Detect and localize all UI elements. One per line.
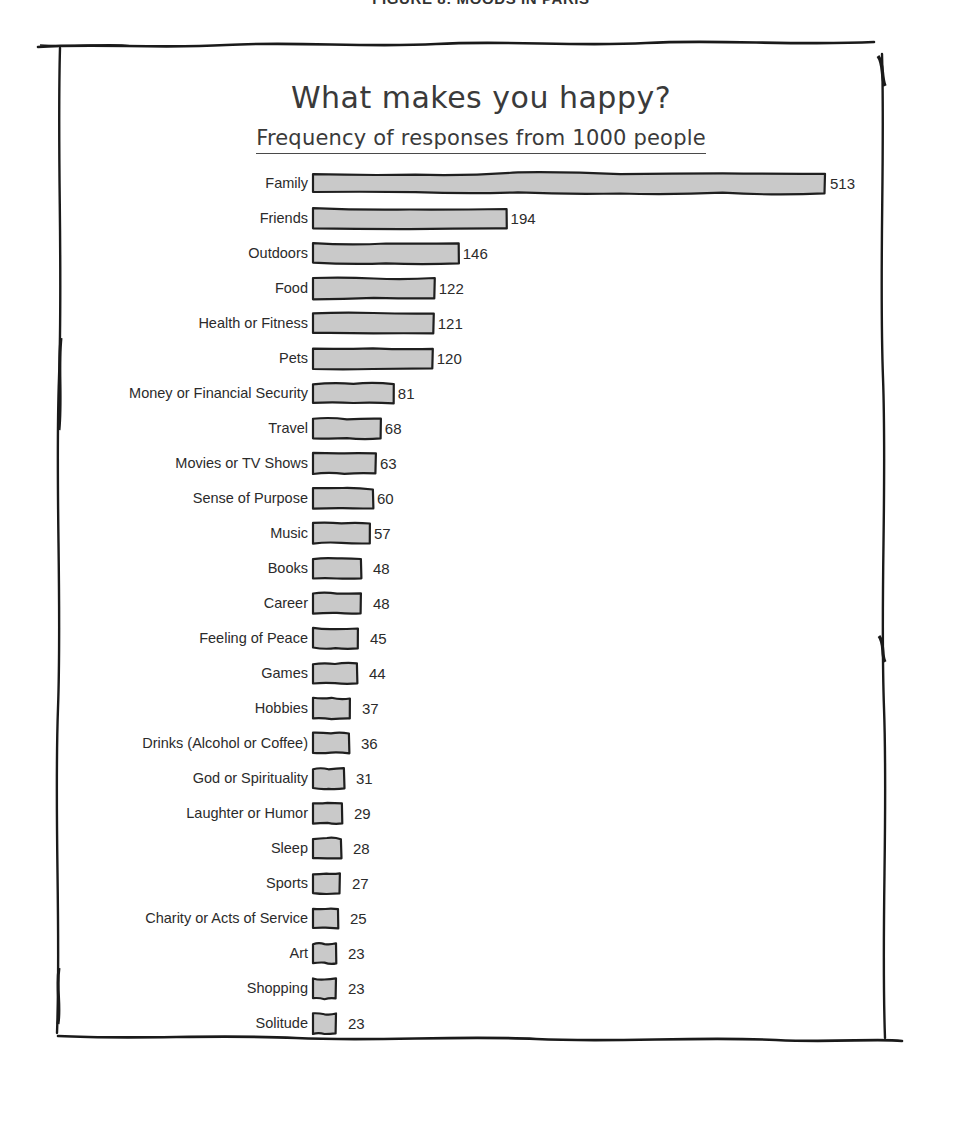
bar-chart-row: Pets120 (0, 341, 962, 376)
bar-category-label: Drinks (Alcohol or Coffee) (142, 726, 308, 761)
bar-outline (313, 243, 459, 264)
bar-value-label: 48 (373, 551, 390, 586)
bar-value-label: 44 (369, 656, 386, 691)
bar-category-label: Outdoors (248, 236, 308, 271)
bar-value-label: 194 (511, 201, 536, 236)
bar-shape (313, 452, 376, 475)
bar-outline (313, 838, 341, 859)
bar-shape (313, 942, 336, 965)
bar-chart-row: Friends194 (0, 201, 962, 236)
bar-shape (313, 872, 340, 895)
bar-category-label: Music (270, 516, 308, 551)
bar-outline (313, 593, 361, 614)
bar-outline (313, 453, 376, 474)
bar-category-label: Family (265, 166, 308, 201)
bar-value-label: 63 (380, 446, 397, 481)
bar-shape (313, 697, 350, 720)
bar-outline (313, 488, 373, 509)
bar-outline (313, 733, 349, 754)
bar-value-label: 45 (370, 621, 387, 656)
bar-outline (313, 348, 433, 369)
bar-shape (313, 347, 433, 370)
bar-value-label: 36 (361, 726, 378, 761)
bar-shape (313, 172, 825, 195)
bar-shape (313, 802, 342, 825)
bar-chart-row: Books48 (0, 551, 962, 586)
bar-value-label: 68 (385, 411, 402, 446)
bar-chart-row: Career48 (0, 586, 962, 621)
bar-chart-row: God or Spirituality31 (0, 761, 962, 796)
bar-outline (313, 383, 394, 403)
bar-chart-row: Travel68 (0, 411, 962, 446)
bar-value-label: 23 (348, 971, 365, 1006)
bar-value-label: 81 (398, 376, 415, 411)
bar-outline (313, 172, 825, 194)
bar-chart-row: Shopping23 (0, 971, 962, 1006)
bar-shape (313, 732, 349, 755)
bar-outline (313, 943, 336, 964)
bar-shape (313, 242, 459, 265)
bar-category-label: Health or Fitness (198, 306, 308, 341)
bar-category-label: Feeling of Peace (199, 621, 308, 656)
bar-chart-plot-area: Family513Friends194Outdoors146Food122Hea… (0, 166, 962, 1026)
bar-chart-row: Family513 (0, 166, 962, 201)
bar-category-label: Movies or TV Shows (175, 446, 308, 481)
bar-chart-row: Charity or Acts of Service25 (0, 901, 962, 936)
bar-shape (313, 837, 341, 860)
bar-outline (313, 628, 358, 649)
bar-outline (313, 768, 344, 789)
bar-value-label: 37 (362, 691, 379, 726)
bar-value-label: 23 (348, 1006, 365, 1041)
bar-outline (313, 313, 434, 334)
bar-value-label: 27 (352, 866, 369, 901)
bar-value-label: 25 (350, 901, 367, 936)
bar-category-label: Career (264, 586, 308, 621)
bar-shape (313, 382, 394, 405)
bar-chart-row: Drinks (Alcohol or Coffee)36 (0, 726, 962, 761)
bar-value-label: 57 (374, 516, 391, 551)
bar-shape (313, 207, 507, 230)
bar-category-label: Food (275, 271, 308, 306)
bar-value-label: 23 (348, 936, 365, 971)
bar-outline (313, 803, 342, 824)
chart-title: What makes you happy? (0, 80, 962, 115)
bar-chart-row: Movies or TV Shows63 (0, 446, 962, 481)
bar-chart-row: Sports27 (0, 866, 962, 901)
bar-category-label: Shopping (247, 971, 308, 1006)
bar-category-label: Hobbies (255, 691, 308, 726)
bar-shape (313, 487, 373, 510)
bar-value-label: 122 (439, 271, 464, 306)
bar-outline (313, 278, 435, 300)
bar-shape (313, 1012, 336, 1035)
bar-chart-row: Health or Fitness121 (0, 306, 962, 341)
bar-shape (313, 907, 338, 930)
bar-category-label: God or Spirituality (193, 761, 308, 796)
bar-chart-row: Money or Financial Security81 (0, 376, 962, 411)
chart-subtitle-wrapper: Frequency of responses from 1000 people (0, 126, 962, 154)
bar-category-label: Friends (260, 201, 308, 236)
bar-shape (313, 417, 381, 440)
bar-category-label: Books (268, 551, 308, 586)
bar-outline (313, 1013, 336, 1034)
bar-chart-row: Music57 (0, 516, 962, 551)
bar-outline (313, 909, 338, 929)
bar-outline (313, 698, 350, 719)
bar-value-label: 31 (356, 761, 373, 796)
bar-value-label: 28 (353, 831, 370, 866)
chart-subtitle: Frequency of responses from 1000 people (256, 126, 706, 154)
bar-value-label: 29 (354, 796, 371, 831)
bar-shape (313, 277, 435, 300)
bar-value-label: 60 (377, 481, 394, 516)
bar-outline (313, 523, 370, 544)
bar-shape (313, 592, 361, 615)
bar-shape (313, 627, 358, 650)
bar-category-label: Solitude (256, 1006, 308, 1041)
bar-shape (313, 557, 361, 580)
bar-chart-row: Feeling of Peace45 (0, 621, 962, 656)
bar-chart-row: Sense of Purpose60 (0, 481, 962, 516)
bar-shape (313, 662, 357, 685)
bar-chart-row: Hobbies37 (0, 691, 962, 726)
bar-value-label: 146 (463, 236, 488, 271)
bar-value-label: 120 (437, 341, 462, 376)
bar-outline (313, 663, 357, 684)
